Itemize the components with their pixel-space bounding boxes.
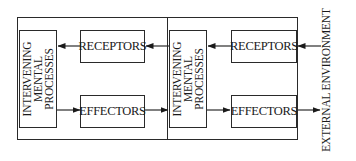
flow-arrows [0,0,356,161]
